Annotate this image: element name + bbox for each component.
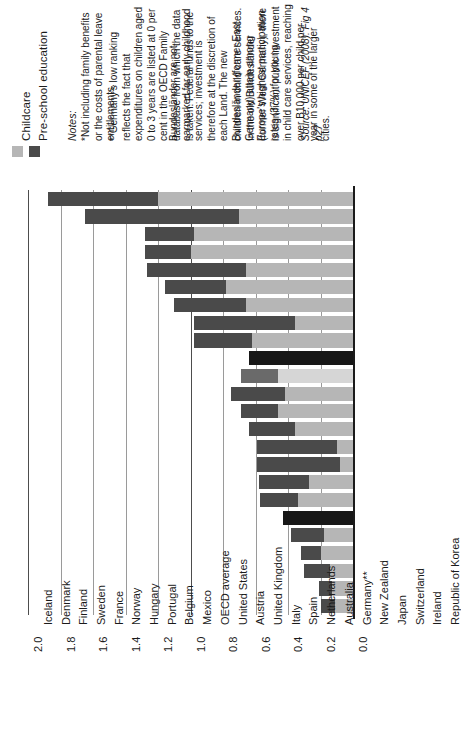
bar-segment-preschool	[241, 404, 278, 418]
category-label: Japan	[396, 595, 408, 625]
bar-segment-preschool	[174, 298, 246, 312]
tick-label: 0.8	[227, 637, 239, 652]
legend-and-notes-block: Childcare Pre-school education Notes: *N…	[0, 0, 387, 182]
legend-swatch-childcare	[12, 146, 23, 157]
bar-segment-preschool	[147, 263, 246, 277]
tick-label: 1.6	[97, 637, 109, 652]
bar-segment-preschool	[249, 351, 353, 365]
category-label: Germany**	[361, 571, 373, 625]
bar-row[interactable]	[28, 387, 353, 401]
bar-row[interactable]	[28, 192, 353, 206]
category-label: Switzerland	[414, 568, 426, 625]
category-label: Spain	[307, 597, 319, 625]
category-label: Australia	[343, 582, 355, 625]
bar-segment-childcare	[298, 493, 353, 507]
bar-segment-preschool	[85, 209, 239, 223]
bar-row[interactable]	[28, 369, 353, 383]
bar-segment-preschool	[48, 192, 159, 206]
bar-segment-preschool	[145, 227, 194, 241]
bar-segment-childcare	[252, 333, 353, 347]
bar-segment-preschool	[194, 316, 295, 330]
category-label: OECD average	[219, 550, 231, 625]
legend-label-preschool: Pre-school education	[37, 31, 49, 141]
category-label: Austria	[254, 591, 266, 625]
category-label: Denmark	[60, 580, 72, 625]
bar-row[interactable]	[28, 227, 353, 241]
tick-label: 0.0	[357, 637, 369, 652]
bar-segment-preschool	[260, 493, 297, 507]
category-label: Finland	[77, 589, 89, 625]
bar-row[interactable]	[28, 457, 353, 471]
bar-segment-childcare	[194, 227, 353, 241]
bar-segment-childcare	[278, 369, 353, 383]
bar-segment-preschool	[241, 369, 278, 383]
bar-row[interactable]	[28, 546, 353, 560]
tick-label: 2.0	[32, 637, 44, 652]
bar-row[interactable]	[28, 440, 353, 454]
tick-label: 1.4	[130, 637, 142, 652]
tick-label: 1.8	[65, 637, 77, 652]
bar-segment-childcare	[246, 298, 353, 312]
category-label: Italy	[290, 605, 302, 625]
bar-segment-childcare	[321, 546, 354, 560]
bar-segment-childcare	[246, 263, 353, 277]
bar-series-container	[28, 190, 353, 615]
category-label: Mexico	[201, 590, 213, 625]
legend-label-childcare: Childcare	[20, 92, 32, 141]
bar-segment-preschool	[231, 387, 285, 401]
bar-row[interactable]	[28, 351, 353, 365]
bar-segment-childcare	[295, 316, 354, 330]
chart-plot-area: 0.00.20.40.60.81.01.21.41.61.82.0 Icelan…	[0, 182, 387, 738]
category-label: Norway	[130, 588, 142, 625]
bar-row[interactable]	[28, 511, 353, 525]
bar-segment-childcare	[285, 387, 353, 401]
tick-label: 0.4	[292, 637, 304, 652]
bar-row[interactable]	[28, 263, 353, 277]
bar-row[interactable]	[28, 528, 353, 542]
bar-row[interactable]	[28, 422, 353, 436]
category-label: New Zealand	[378, 560, 390, 625]
bar-segment-preschool	[145, 245, 191, 259]
category-label: Belgium	[183, 585, 195, 625]
bar-segment-preschool	[194, 333, 253, 347]
bar-segment-childcare	[278, 404, 353, 418]
category-label: Sweden	[95, 585, 107, 625]
category-label: Ireland	[431, 591, 443, 625]
bar-segment-preschool	[249, 422, 295, 436]
category-label: Netherlands	[325, 566, 337, 625]
tick-label: 0.6	[260, 637, 272, 652]
category-label: United States	[237, 559, 249, 625]
bar-segment-childcare	[239, 209, 353, 223]
bar-row[interactable]	[28, 333, 353, 347]
bar-segment-childcare	[337, 440, 353, 454]
bar-segment-preschool	[301, 546, 321, 560]
bar-segment-preschool	[283, 511, 353, 525]
bar-segment-preschool	[257, 440, 337, 454]
bar-row[interactable]	[28, 280, 353, 294]
category-label: Portugal	[166, 584, 178, 625]
category-label: France	[113, 591, 125, 625]
notes-heading: Notes:	[66, 111, 78, 141]
tick-label: 0.2	[325, 637, 337, 652]
bar-row[interactable]	[28, 209, 353, 223]
bar-row[interactable]	[28, 316, 353, 330]
value-axis-line	[353, 186, 355, 619]
bar-row[interactable]	[28, 404, 353, 418]
category-label: Iceland	[42, 590, 54, 625]
bar-row[interactable]	[28, 493, 353, 507]
bar-segment-preschool	[259, 475, 309, 489]
bar-row[interactable]	[28, 298, 353, 312]
category-label: United Kingdom	[272, 547, 284, 625]
bar-segment-childcare	[340, 457, 353, 471]
source-citation: Source: UNICEF (2008): Fig 4 p27	[300, 1, 325, 141]
bar-segment-childcare	[191, 245, 354, 259]
bar-row[interactable]	[28, 564, 353, 578]
bar-segment-preschool	[291, 528, 324, 542]
category-label: Republic of Korea	[449, 538, 461, 625]
bar-row[interactable]	[28, 475, 353, 489]
bar-segment-preschool	[257, 457, 340, 471]
legend-swatch-preschool	[29, 146, 40, 157]
bar-row[interactable]	[28, 245, 353, 259]
bar-segment-preschool	[165, 280, 227, 294]
bar-segment-childcare	[309, 475, 353, 489]
